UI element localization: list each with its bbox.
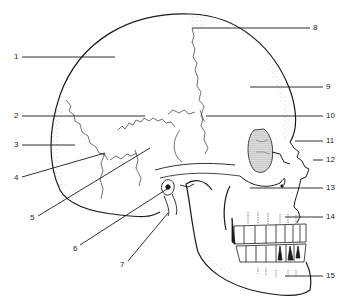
label-10: 10 <box>326 112 335 120</box>
label-2: 2 <box>14 112 18 120</box>
label-9: 9 <box>326 83 330 91</box>
label-1: 1 <box>14 53 18 61</box>
label-3: 3 <box>14 141 18 149</box>
label-7: 7 <box>120 261 124 269</box>
leader-line-4 <box>22 153 105 177</box>
skull-diagram: 1 2 3 4 5 6 7 8 9 10 11 12 13 14 15 <box>0 0 345 308</box>
label-4: 4 <box>14 174 18 182</box>
sutures <box>66 28 240 199</box>
skull-illustration <box>0 0 345 308</box>
label-11: 11 <box>326 137 334 145</box>
leader-line-6 <box>80 189 167 245</box>
teeth <box>232 212 306 277</box>
leader-line-7 <box>128 213 168 261</box>
label-12: 12 <box>326 156 335 164</box>
label-14: 14 <box>326 213 335 221</box>
orbit <box>248 129 273 172</box>
label-13: 13 <box>326 184 335 192</box>
label-5: 5 <box>30 214 34 222</box>
label-8: 8 <box>313 24 317 32</box>
label-6: 6 <box>73 245 77 253</box>
label-15: 15 <box>326 272 335 280</box>
